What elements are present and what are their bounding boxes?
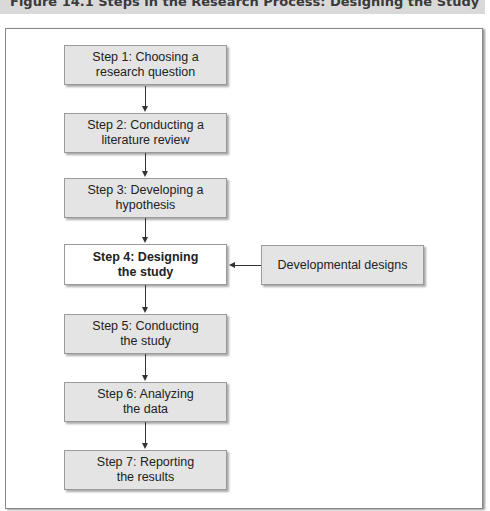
step-4-line1: Step 4: Designing xyxy=(93,250,199,264)
connector-3-4 xyxy=(145,218,146,238)
arrow-left-icon xyxy=(229,262,235,268)
figure-caption-bar: Figure 14.1 Steps in the Research Proces… xyxy=(0,0,485,14)
step-1-line1: Step 1: Choosing a xyxy=(92,50,198,64)
step-7-box: Step 7: Reportingthe results xyxy=(64,450,227,490)
step-2-box: Step 2: Conducting aliterature review xyxy=(64,113,227,153)
step-3-box: Step 3: Developing ahypothesis xyxy=(64,178,227,218)
step-4-line2: the study xyxy=(118,265,174,279)
arrow-down-icon xyxy=(142,171,148,177)
arrow-down-icon xyxy=(142,237,148,243)
step-3-line1: Step 3: Developing a xyxy=(87,183,203,197)
step-5-line2: the study xyxy=(120,334,171,348)
connector-4-5 xyxy=(145,285,146,308)
step-6-line1: Step 6: Analyzing xyxy=(97,387,194,401)
step-3-line2: hypothesis xyxy=(116,198,176,212)
connector-6-7 xyxy=(145,422,146,444)
connector-5-6 xyxy=(145,354,146,376)
connector-1-2 xyxy=(145,86,146,107)
step-6-line2: the data xyxy=(123,402,168,416)
step-7-line2: the results xyxy=(117,470,175,484)
arrow-down-icon xyxy=(142,307,148,313)
step-4-box: Step 4: Designingthe study xyxy=(64,244,227,285)
step-1-box: Step 1: Choosing aresearch question xyxy=(64,45,227,85)
step-2-line2: literature review xyxy=(101,133,189,147)
connector-2-3 xyxy=(145,153,146,172)
arrow-down-icon xyxy=(142,375,148,381)
figure-caption: Figure 14.1 Steps in the Research Proces… xyxy=(10,0,479,9)
developmental-designs-label: Developmental designs xyxy=(278,258,408,273)
step-7-line1: Step 7: Reporting xyxy=(97,455,194,469)
step-5-box: Step 5: Conductingthe study xyxy=(64,314,227,354)
step-5-line1: Step 5: Conducting xyxy=(92,319,198,333)
arrow-down-icon xyxy=(142,443,148,449)
step-1-line2: research question xyxy=(96,65,195,79)
arrow-down-icon xyxy=(142,106,148,112)
connector-side-to-step-4 xyxy=(234,265,261,266)
step-2-line1: Step 2: Conducting a xyxy=(87,118,204,132)
developmental-designs-box: Developmental designs xyxy=(261,245,424,285)
step-6-box: Step 6: Analyzingthe data xyxy=(64,382,227,422)
